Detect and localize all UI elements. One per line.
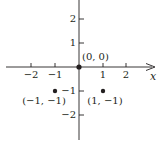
point-1-neg1 <box>101 89 105 93</box>
x-tick-label: 1 <box>100 69 106 80</box>
x-tick-label: −1 <box>48 69 63 80</box>
y-tick-label: 2 <box>70 13 76 24</box>
x-tick-label: 2 <box>123 69 129 80</box>
x-tick-label: −2 <box>24 69 39 80</box>
point-origin <box>76 64 81 69</box>
y-tick-label: 1 <box>70 37 76 48</box>
point-neg1-neg1 <box>53 89 57 93</box>
coordinate-plane: −2 −1 1 2 2 1 −1 −2 x (0, 0) (−1, −1) (1… <box>0 0 161 144</box>
x-axis-label: x <box>150 70 157 83</box>
point-label: (0, 0) <box>82 51 109 62</box>
point-label: (−1, −1) <box>22 95 66 106</box>
point-label: (1, −1) <box>87 95 122 106</box>
y-tick-label: −2 <box>61 109 76 120</box>
